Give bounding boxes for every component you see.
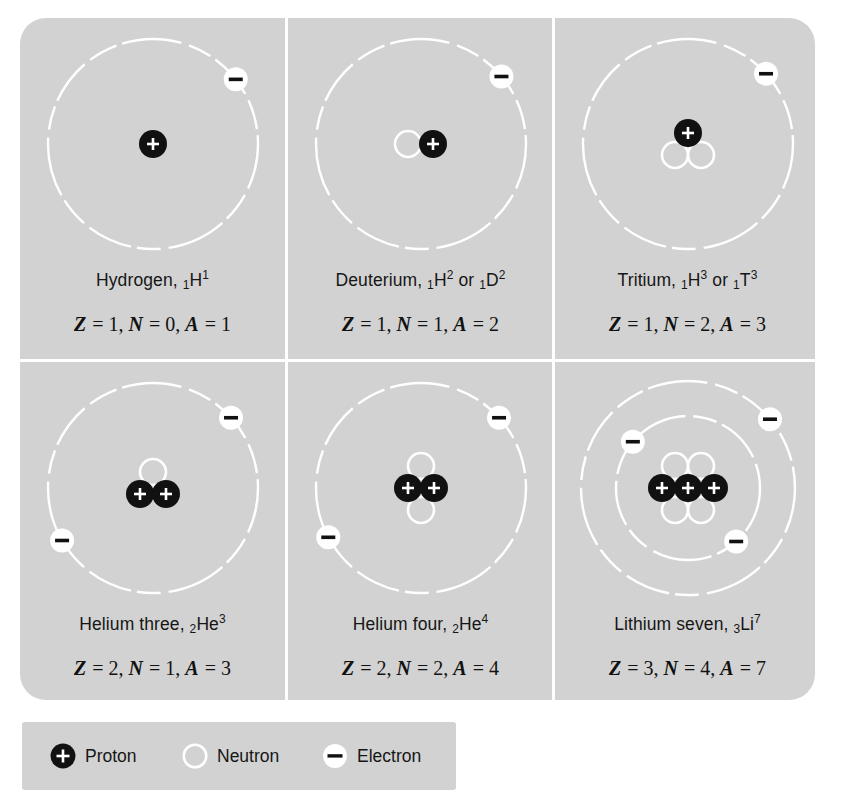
- symbol-N: N: [129, 657, 144, 679]
- atom-svg: [28, 363, 278, 613]
- isotope-notation: 1H2: [427, 270, 453, 290]
- symbol-A: A: [720, 657, 734, 679]
- symbol-Z: Z: [74, 313, 87, 335]
- isotope-notation: 1T3: [733, 270, 757, 290]
- isotope-word: Tritium,: [618, 270, 676, 290]
- symbol-N: N: [397, 313, 412, 335]
- figure-root: Hydrogen, 1H1 Z = 1, N = 0, A = 1 Deuter…: [0, 0, 841, 801]
- isotope-name-hydrogen: Hydrogen, 1H1: [20, 270, 285, 291]
- legend-label: Neutron: [217, 746, 279, 767]
- isotope-formula-helium-three: Z = 2, N = 1, A = 3: [20, 657, 285, 680]
- electrons: [50, 406, 243, 553]
- isotope-formula-tritium: Z = 1, N = 2, A = 3: [555, 313, 820, 336]
- symbol-N: N: [397, 657, 412, 679]
- nucleus: [139, 130, 167, 158]
- legend-items: ProtonNeutronElectron: [22, 722, 456, 790]
- symbol-N: N: [664, 313, 679, 335]
- isotope-word: Hydrogen,: [96, 270, 178, 290]
- isotope-cell-helium-three: Helium three, 2He3 Z = 2, N = 1, A = 3: [20, 362, 285, 703]
- isotope-name-tritium: Tritium, 1H3 or 1T3: [555, 270, 820, 291]
- atom-svg: [296, 363, 546, 613]
- atom-svg: [563, 363, 813, 613]
- legend-label: Proton: [85, 746, 137, 767]
- isotope-word: Lithium seven,: [614, 614, 728, 634]
- isotope-notation: 1H1: [183, 270, 209, 290]
- legend-item-electron: Electron: [322, 742, 421, 770]
- symbol-N: N: [664, 657, 679, 679]
- electrons: [223, 67, 247, 91]
- isotope-cell-deuterium: Deuterium, 1H2 or 1D2 Z = 1, N = 1, A = …: [288, 18, 553, 359]
- legend: ProtonNeutronElectron: [22, 722, 456, 790]
- isotope-notation: 3Li7: [733, 614, 760, 634]
- nucleus: [648, 453, 728, 523]
- proton-icon: [50, 743, 76, 769]
- atom-svg: [28, 19, 278, 269]
- isotope-formula-deuterium: Z = 1, N = 1, A = 2: [288, 313, 553, 336]
- symbol-Z: Z: [609, 657, 622, 679]
- nucleus: [395, 130, 447, 158]
- nucleus: [126, 459, 180, 508]
- atom-diagram-helium-four: [288, 362, 553, 612]
- symbol-A: A: [185, 657, 199, 679]
- symbol-Z: Z: [342, 313, 355, 335]
- symbol-Z: Z: [74, 657, 87, 679]
- isotope-cell-tritium: Tritium, 1H3 or 1T3 Z = 1, N = 2, A = 3: [555, 18, 820, 359]
- symbol-A: A: [720, 313, 734, 335]
- isotope-panel-grid: Hydrogen, 1H1 Z = 1, N = 0, A = 1 Deuter…: [20, 18, 815, 700]
- atom-svg: [563, 19, 813, 269]
- symbol-Z: Z: [609, 313, 622, 335]
- isotope-word: Deuterium,: [336, 270, 423, 290]
- atom-diagram-lithium-seven: [555, 362, 820, 612]
- isotope-cell-hydrogen: Hydrogen, 1H1 Z = 1, N = 0, A = 1: [20, 18, 285, 359]
- symbol-A: A: [453, 313, 467, 335]
- legend-item-proton: Proton: [50, 742, 137, 770]
- notation-joiner: or: [712, 270, 728, 290]
- isotope-word: Helium three,: [79, 614, 184, 634]
- symbol-N: N: [129, 313, 144, 335]
- isotope-notation: 2He4: [452, 614, 488, 634]
- notation-joiner: or: [458, 270, 474, 290]
- symbol-A: A: [453, 657, 467, 679]
- symbol-A: A: [185, 313, 199, 335]
- isotope-formula-helium-four: Z = 2, N = 2, A = 4: [288, 657, 553, 680]
- isotope-notation: 1D2: [479, 270, 505, 290]
- isotope-name-deuterium: Deuterium, 1H2 or 1D2: [288, 270, 553, 291]
- atom-diagram-tritium: [555, 18, 820, 268]
- atom-svg: [296, 19, 546, 269]
- atom-diagram-hydrogen: [20, 18, 285, 268]
- symbol-Z: Z: [342, 657, 355, 679]
- isotope-word: Helium four,: [353, 614, 448, 634]
- isotope-formula-lithium-seven: Z = 3, N = 4, A = 7: [555, 657, 820, 680]
- isotope-notation: 2He3: [190, 614, 226, 634]
- isotope-cell-lithium-seven: Lithium seven, 3Li7 Z = 3, N = 4, A = 7: [555, 362, 820, 703]
- legend-item-neutron: Neutron: [182, 742, 279, 770]
- isotope-name-helium-three: Helium three, 2He3: [20, 614, 285, 635]
- isotope-cell-helium-four: Helium four, 2He4 Z = 2, N = 2, A = 4: [288, 362, 553, 703]
- electrons: [754, 62, 778, 86]
- isotope-notation: 1H3: [681, 270, 707, 290]
- legend-label: Electron: [357, 746, 421, 767]
- isotope-formula-hydrogen: Z = 1, N = 0, A = 1: [20, 313, 285, 336]
- isotope-name-helium-four: Helium four, 2He4: [288, 614, 553, 635]
- atom-diagram-helium-three: [20, 362, 285, 612]
- electron-icon: [322, 743, 348, 769]
- neutron-icon: [182, 743, 208, 769]
- isotope-name-lithium-seven: Lithium seven, 3Li7: [555, 614, 820, 635]
- electrons: [489, 65, 513, 89]
- atom-diagram-deuterium: [288, 18, 553, 268]
- nucleus: [394, 453, 448, 523]
- nucleus: [662, 119, 714, 168]
